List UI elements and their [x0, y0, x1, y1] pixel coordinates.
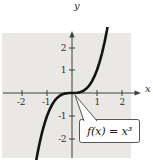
x-tick-label-neg1: -1 [38, 97, 54, 107]
function-label: f(x) = x³ [80, 120, 139, 142]
y-axis-label: y [74, 1, 80, 11]
x-tick-label-2: 2 [114, 97, 130, 107]
x-axis-label: x [145, 84, 151, 94]
y-tick-label-neg2: -2 [50, 134, 66, 144]
y-tick-label-1: 1 [50, 65, 66, 75]
x-tick-label-neg2: -2 [13, 97, 29, 107]
y-axis-arrow-icon [69, 31, 74, 38]
y-tick-label-2: 2 [50, 43, 66, 53]
x-axis-arrow-icon [135, 90, 142, 95]
cubic-function-graph: y x -2 -1 1 2 2 1 -1 -2 f(x) = x³ [0, 0, 153, 163]
y-tick-label-neg1: -1 [50, 111, 66, 121]
x-tick-label-1: 1 [89, 97, 105, 107]
